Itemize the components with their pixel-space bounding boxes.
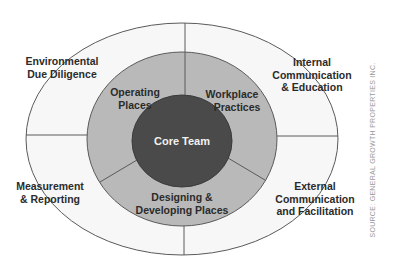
workplace-practices-label: Workplace Practices	[204, 88, 261, 113]
concentric-ring-diagram	[0, 0, 396, 267]
operating-places-label: Operating Places	[110, 86, 160, 111]
core-team-label: Core Team	[154, 135, 210, 148]
designing-developing-places-label: Designing & Developing Places	[136, 191, 229, 216]
source-credit: SOURCE: GENERAL GROWTH PROPERTIES INC.	[369, 62, 376, 237]
internal-communication-education-label: Internal Communication & Education	[272, 56, 351, 94]
external-communication-facilitation-label: External Communication and Facilitation	[275, 180, 354, 218]
environmental-due-diligence-label: Environmental Due Diligence	[26, 55, 99, 80]
measurement-reporting-label: Measurement & Reporting	[16, 180, 84, 205]
